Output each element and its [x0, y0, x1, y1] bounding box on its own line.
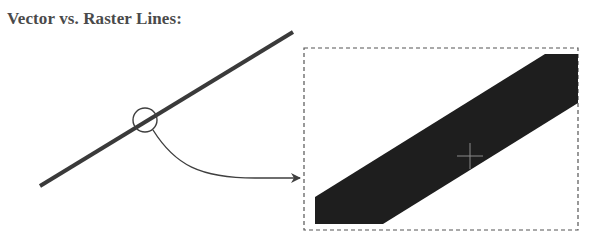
vector-line: [40, 32, 293, 186]
vector-raster-diagram: [0, 0, 595, 243]
zoom-connector-arrow: [153, 130, 300, 178]
raster-line-band: [315, 54, 578, 224]
